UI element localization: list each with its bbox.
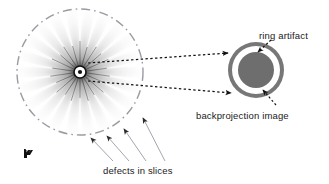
label-ring-artifact: ring artifact [259,30,308,41]
defect-leader-1 [91,138,113,161]
corner-mark-icon [24,149,33,158]
figure-canvas: ring artifact backprojection image defec… [0,0,329,184]
defect-leader-3 [124,129,146,161]
starburst-diagram [16,8,144,136]
label-defects-in-slices: defects in slices [103,165,173,176]
defect-leader-2 [107,136,129,161]
backprojection-disc [228,42,284,98]
disc-core [238,52,274,88]
starburst-center-dot [78,70,82,74]
defect-leader-4 [143,118,165,161]
diagram-graphics [0,0,329,184]
label-backprojection-image: backprojection image [196,110,289,121]
